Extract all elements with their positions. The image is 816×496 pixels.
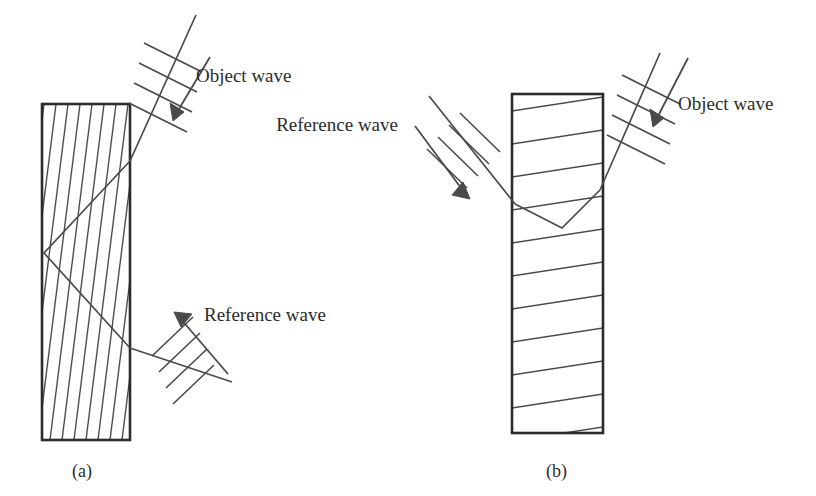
panel-b-caption: (b) [546, 461, 567, 482]
figure-root: Object wave Reference wave (a) [0, 0, 816, 496]
panel-a-caption: (a) [72, 461, 92, 482]
object-wave-a-label: Object wave [196, 65, 291, 86]
object-wave-b-label: Object wave [678, 93, 773, 114]
reference-wave-b-label: Reference wave [276, 114, 398, 135]
reference-wave-a-label: Reference wave [204, 304, 326, 325]
holography-geometry-diagram: Object wave Reference wave (a) [0, 0, 816, 496]
